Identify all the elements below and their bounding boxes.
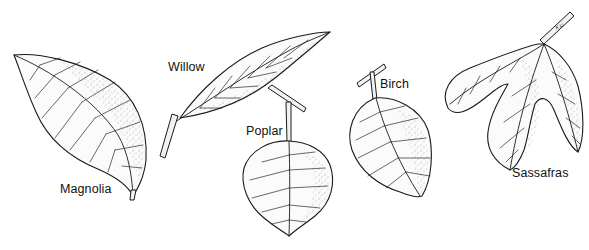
magnolia-leaf <box>14 54 146 200</box>
magnolia-label: Magnolia <box>60 182 112 196</box>
birch-label: Birch <box>380 77 409 91</box>
poplar-label: Poplar <box>246 124 283 138</box>
poplar-leaf <box>243 85 333 236</box>
willow-leaf <box>160 32 330 158</box>
leaf-illustration <box>0 0 589 250</box>
willow-label: Willow <box>168 60 205 74</box>
sassafras-label: Sassafras <box>512 166 568 180</box>
sassafras-leaf <box>445 12 583 170</box>
